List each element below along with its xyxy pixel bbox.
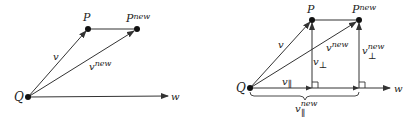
label-v-perp: v⊥ [313,56,327,70]
label-v-perp-new: vnew⊥ [362,42,385,61]
vector-projection-diagram: Q P Pnew v vnew w Q P Pnew v vnew v⊥ vne… [0,0,413,125]
label-p: P [306,3,315,16]
point-p [309,17,315,23]
label-p: P [82,11,91,24]
label-v-par: v∥ [282,76,292,89]
vector-w-arrow [28,96,168,97]
v-par-new-arrowhead [353,86,359,91]
right-angle-marker [312,82,318,88]
label-v-new: vnew [326,40,349,53]
label-v: v [53,51,59,62]
label-v-par-new: vnew∥ [295,99,318,118]
label-q: Q [14,90,24,104]
label-w: w [171,91,180,102]
label-p-new: Pnew [351,3,376,16]
label-v-new: vnew [89,59,112,72]
label-p-new: Pnew [125,12,150,25]
label-w: w [394,83,403,94]
point-p-new [356,17,362,23]
point-q [247,85,253,91]
vector-v-new-arrow [250,22,356,88]
point-q [25,94,31,100]
v-par-arrowhead [306,86,312,91]
right-angle-marker [359,82,365,88]
label-v: v [278,39,284,50]
vector-v-arrow [28,31,86,97]
right-diagram: Q P Pnew v vnew v⊥ vnew⊥ v∥ vnew∥ w [236,3,403,118]
point-p [85,26,91,32]
point-p-new [134,26,140,32]
vector-v-arrow [250,22,310,88]
vector-v-new-arrow [28,31,134,97]
left-diagram: Q P Pnew v vnew w [14,11,180,104]
label-q: Q [236,81,246,95]
